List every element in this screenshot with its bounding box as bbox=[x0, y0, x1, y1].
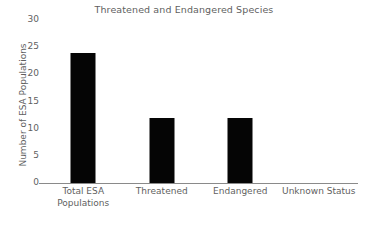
y-tick-label: 5 bbox=[17, 151, 39, 160]
y-tick-label: 30 bbox=[17, 15, 39, 24]
bar[interactable] bbox=[71, 53, 96, 183]
y-tick-label: 15 bbox=[17, 97, 39, 106]
bar-chart: Threatened and Endangered Species Number… bbox=[0, 0, 368, 228]
x-axis-labels: Total ESAPopulationsThreatenedEndangered… bbox=[44, 186, 358, 226]
chart-title: Threatened and Endangered Species bbox=[0, 4, 368, 15]
y-tick-label: 20 bbox=[17, 69, 39, 78]
x-tick-label-line: Endangered bbox=[195, 186, 285, 198]
bar-slot bbox=[44, 20, 123, 183]
bars-container bbox=[44, 20, 358, 183]
bar[interactable] bbox=[149, 118, 174, 183]
bar-slot bbox=[201, 20, 280, 183]
x-tick-label: Threatened bbox=[117, 186, 207, 198]
x-tick-label: Endangered bbox=[195, 186, 285, 198]
x-axis-line bbox=[44, 183, 358, 184]
x-tick-label: Unknown Status bbox=[274, 186, 364, 198]
x-tick-label: Total ESAPopulations bbox=[38, 186, 128, 209]
x-tick-label-line: Threatened bbox=[117, 186, 207, 198]
bar-slot bbox=[280, 20, 359, 183]
bar[interactable] bbox=[228, 118, 253, 183]
y-tick-label: 10 bbox=[17, 124, 39, 133]
x-tick-label-line: Total ESA bbox=[38, 186, 128, 198]
y-tick-label: 25 bbox=[17, 42, 39, 51]
x-tick-label-line: Populations bbox=[38, 198, 128, 210]
y-tick-label: 0 bbox=[17, 178, 39, 187]
bar-slot bbox=[123, 20, 202, 183]
x-tick-label-line: Unknown Status bbox=[274, 186, 364, 198]
